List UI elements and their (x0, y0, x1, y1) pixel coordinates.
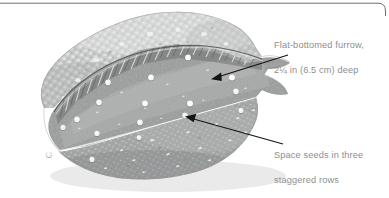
callout-furrow-line2: 2¼ in (6.5 cm) deep (274, 64, 364, 76)
callout-seeds-line2: staggered rows (274, 174, 363, 186)
figure-container: Flat-bottomed furrow, 2¼ in (6.5 cm) dee… (0, 0, 389, 198)
callout-furrow-line1: Flat-bottomed furrow, (274, 39, 364, 51)
seed (46, 152, 52, 158)
callout-seed-spacing: Space seeds in three staggered rows (274, 137, 363, 198)
callout-flat-bottomed-furrow: Flat-bottomed furrow, 2¼ in (6.5 cm) dee… (274, 27, 364, 88)
callout-seeds-line1: Space seeds in three (274, 149, 363, 161)
